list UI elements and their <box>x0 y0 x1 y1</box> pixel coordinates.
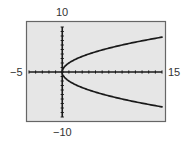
x-min-label: −5 <box>10 67 23 78</box>
y-min-label: −10 <box>53 127 72 138</box>
x-axis <box>29 70 162 73</box>
y-max-label: 10 <box>56 7 68 18</box>
x-max-label: 15 <box>168 67 180 78</box>
graphing-calculator-screen <box>0 0 189 147</box>
